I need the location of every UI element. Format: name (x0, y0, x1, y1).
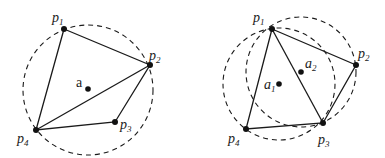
point-p4 (243, 126, 249, 132)
label-p3: p3 (317, 132, 330, 149)
center-a (85, 86, 91, 92)
label-p4: p4 (16, 131, 29, 148)
label-a: a (76, 75, 83, 90)
point-p4 (33, 127, 39, 133)
quadrilateral (36, 29, 150, 130)
label-a2: a2 (305, 56, 317, 73)
label-p3: p3 (119, 117, 132, 134)
label-p2: p2 (148, 48, 161, 65)
point-p3 (320, 120, 326, 126)
left-figure: p1 p2 p3 p4 a (16, 10, 161, 155)
right-figure: p1 p2 p3 p4 a1 a2 (223, 10, 370, 149)
label-a1: a1 (264, 77, 276, 94)
label-p1: p1 (51, 10, 64, 27)
point-p3 (112, 119, 118, 125)
label-p2: p2 (357, 46, 370, 63)
label-p4: p4 (227, 131, 240, 148)
label-p1: p1 (252, 10, 265, 27)
center-a1 (276, 81, 282, 87)
diagonal-p1-p3 (272, 29, 323, 123)
point-p2 (353, 62, 359, 68)
quadrilateral (246, 29, 356, 129)
center-a2 (298, 69, 304, 75)
delaunay-diagram: p1 p2 p3 p4 a p1 p2 p3 p4 a1 a2 (0, 0, 385, 158)
diagonal-p2-p4 (36, 65, 150, 130)
point-p1 (269, 26, 275, 32)
